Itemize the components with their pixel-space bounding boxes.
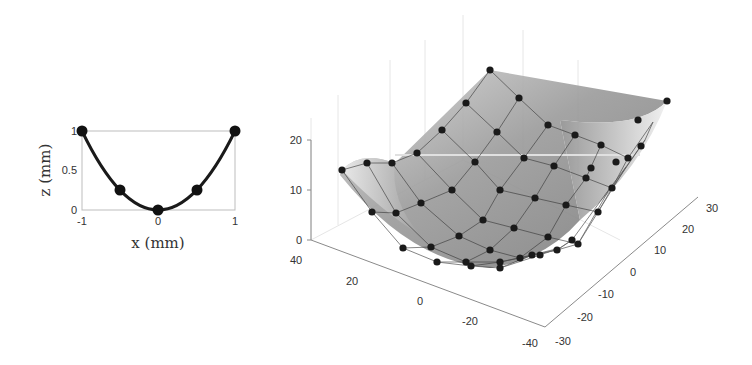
marker [388,159,395,166]
marker [516,254,523,261]
marker [582,174,589,181]
marker [230,126,241,137]
figure: 1 0.5 0 -1 0 1 x (mm) z (mm) [0,0,752,365]
marker [550,162,557,169]
marker [637,142,644,149]
marker [562,201,569,208]
marker [571,131,578,138]
x-axis-label: x (mm) [131,234,184,252]
y-tick-0: 0 [630,266,636,278]
marker [486,66,493,73]
marker [510,224,517,231]
marker [594,208,601,215]
marker [553,246,560,253]
right-plot: 20 10 0 40 20 0 -20 -40 -30 -20 -10 0 10… [290,15,718,349]
marker [192,185,203,196]
x-tick-20: 20 [346,275,358,287]
marker [427,243,434,250]
marker [417,199,424,206]
marker [363,159,370,166]
marker [544,233,551,240]
y-tick-10: 10 [654,244,666,256]
marker [597,141,604,148]
x-tick-1: 1 [232,215,238,227]
y-tick-30: 30 [706,202,718,214]
marker [608,184,615,191]
x-tick-0: 0 [155,215,161,227]
marker [515,94,522,101]
z-tick-10: 10 [290,184,302,196]
marker [520,154,527,161]
marker [528,251,535,258]
marker [486,246,493,253]
marker [392,209,399,216]
marker [568,236,575,243]
marker [634,116,641,123]
left-plot: 1 0.5 0 -1 0 1 x (mm) z (mm) [36,125,241,252]
marker [574,240,581,247]
x-tick-neg20: -20 [462,315,478,327]
marker [612,158,619,165]
marker [471,158,478,165]
x-tick-neg40: -40 [522,337,538,349]
x-tick-neg1: -1 [77,215,87,227]
marker [663,97,670,104]
z-tick-20: 20 [290,134,302,146]
y-tick-20: 20 [682,223,694,235]
marker [496,186,503,193]
marker [399,244,406,251]
y-tick-neg10: -10 [598,288,614,300]
marker [433,258,440,265]
y-tick-1: 1 [71,125,77,137]
marker [479,216,486,223]
marker [462,99,469,106]
z-axis: 20 10 0 [290,134,311,246]
x-tick-40: 40 [290,254,302,266]
paraboloid-surface [340,70,667,268]
marker [493,128,500,135]
y-axis-label: z (mm) [36,144,54,197]
marker [467,262,474,269]
y-tick-0.5: 0.5 [62,164,77,176]
y-tick-neg30: -30 [555,335,571,347]
marker [455,232,462,239]
marker [438,126,445,133]
marker [368,208,375,215]
marker [448,186,455,193]
x-tick-0: 0 [417,295,423,307]
marker [338,166,345,173]
left-plot-y-ticks: 1 0.5 0 [62,125,77,216]
y-tick-0: 0 [71,204,77,216]
marker [587,164,594,171]
marker [115,185,126,196]
marker [531,194,538,201]
marker [536,251,543,258]
marker [496,264,503,271]
marker [544,121,551,128]
marker [77,126,88,137]
marker [413,149,420,156]
z-tick-0: 0 [296,234,302,246]
marker [624,154,631,161]
marker [153,205,164,216]
left-plot-x-ticks: -1 0 1 [77,215,238,227]
y-tick-neg20: -20 [577,311,593,323]
